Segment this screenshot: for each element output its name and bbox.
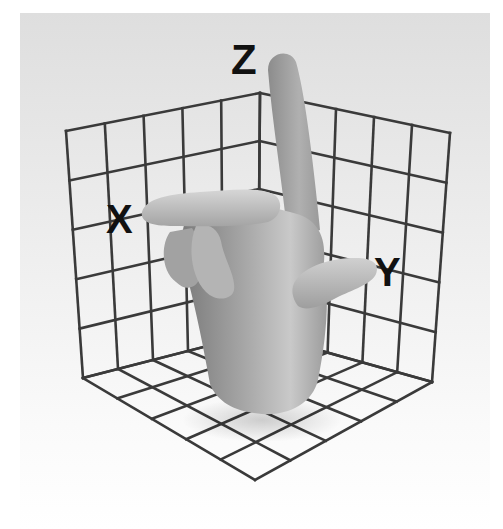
- axis-label-z: Z: [231, 36, 257, 83]
- axis-label-x: X: [106, 197, 133, 241]
- right-hand-rule-diagram: X Y Z: [0, 0, 503, 529]
- axis-label-y: Y: [374, 250, 401, 294]
